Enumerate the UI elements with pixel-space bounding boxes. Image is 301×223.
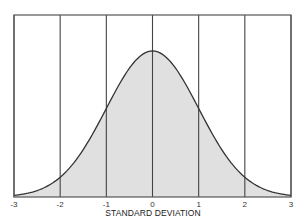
x-axis-label: STANDARD DEVIATION	[105, 208, 200, 218]
x-tick-label: -2	[57, 200, 65, 209]
normal-distribution-chart: -3-2-10123 STANDARD DEVIATION	[0, 0, 301, 223]
x-tick-label: 3	[289, 200, 294, 209]
vertical-gridlines	[14, 15, 291, 197]
x-tick-label: -3	[10, 200, 18, 209]
x-tick-label: 2	[243, 200, 248, 209]
